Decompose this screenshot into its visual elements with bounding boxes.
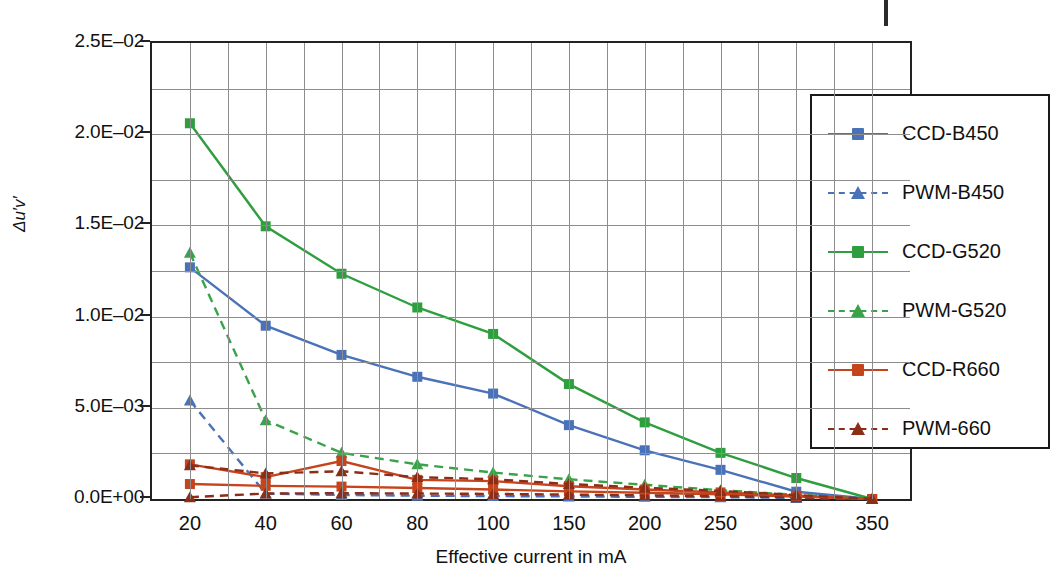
legend-marker-square (852, 246, 864, 258)
x-axis-tick-label: 40 (255, 512, 277, 534)
legend-item-pwm-b450[interactable]: PWM-B450 (812, 163, 1048, 222)
legend-label: CCD-G520 (888, 240, 1001, 263)
legend-symbol (828, 183, 888, 203)
legend-label: PWM-B450 (888, 181, 1004, 204)
grid-line-vertical (834, 43, 835, 499)
x-axis-title: Effective current in mA (150, 546, 912, 568)
grid-line-vertical (417, 43, 418, 499)
legend-marker-triangle (851, 304, 865, 317)
y-axis-tick-label: 2.5E–02 (16, 31, 144, 50)
y-axis-tick-label: 2.0E–02 (16, 122, 144, 141)
y-axis-tick-label: 5.0E–03 (16, 396, 144, 415)
y-axis-tick-label: 0.0E+00 (16, 487, 144, 506)
y-axis-tick-mark (140, 314, 150, 316)
x-axis-tick-label: 100 (476, 512, 509, 534)
x-axis-tick-label: 200 (628, 512, 661, 534)
grid-line-vertical (455, 43, 456, 499)
y-axis-tick-mark (140, 222, 150, 224)
grid-line-vertical (266, 43, 267, 499)
y-axis-tick-labels: 0.0E+005.0E–031.0E–021.5E–022.0E–022.5E–… (0, 41, 144, 501)
x-axis-tick-label: 300 (780, 512, 813, 534)
grid-line-vertical (228, 43, 229, 499)
grid-line-vertical (758, 43, 759, 499)
y-axis-tick-label: 1.5E–02 (16, 213, 144, 232)
x-axis-tick-label: 60 (330, 512, 352, 534)
grid-line-vertical (796, 43, 797, 499)
grid-line-vertical (872, 43, 873, 499)
grid-line-vertical (190, 43, 191, 499)
legend-label: PWM-660 (888, 417, 991, 440)
y-axis-tick-mark (140, 496, 150, 498)
x-axis-tick-label: 80 (406, 512, 428, 534)
grid-line-vertical (607, 43, 608, 499)
legend-marker-square (852, 364, 864, 376)
legend-item-ccd-r660[interactable]: CCD-R660 (812, 340, 1048, 399)
y-axis-tick-label: 1.0E–02 (16, 305, 144, 324)
y-axis-title-text: Δu′v′ (10, 196, 29, 232)
grid-line-vertical (531, 43, 532, 499)
y-axis-tick-mark (140, 131, 150, 133)
x-axis-tick-label: 250 (704, 512, 737, 534)
x-axis-tick-label: 20 (179, 512, 201, 534)
legend-item-ccd-g520[interactable]: CCD-G520 (812, 222, 1048, 281)
legend-symbol (828, 419, 888, 439)
legend-marker-triangle (851, 186, 865, 199)
page-edge-mark (884, 0, 888, 26)
grid-line-vertical (721, 43, 722, 499)
x-axis-tick-label: 350 (855, 512, 888, 534)
x-axis-tick-labels: 20406080100150200250300350 (150, 506, 912, 538)
grid-line-vertical (683, 43, 684, 499)
legend-label: PWM-G520 (888, 299, 1006, 322)
grid-line-vertical (569, 43, 570, 499)
legend-symbol (828, 242, 888, 262)
y-axis-tick-mark (140, 40, 150, 42)
grid-line-vertical (342, 43, 343, 499)
grid-line-vertical (379, 43, 380, 499)
y-axis-title: Δu′v′ (10, 196, 30, 232)
grid-line-vertical (304, 43, 305, 499)
y-axis-tick-mark (140, 405, 150, 407)
legend-item-pwm-g520[interactable]: PWM-G520 (812, 281, 1048, 340)
plot-area: CCD-B450PWM-B450CCD-G520PWM-G520CCD-R660… (150, 41, 912, 501)
grid-line-vertical (493, 43, 494, 499)
x-axis-tick-label: 150 (552, 512, 585, 534)
legend-marker-triangle (851, 422, 865, 435)
grid-line-vertical (645, 43, 646, 499)
